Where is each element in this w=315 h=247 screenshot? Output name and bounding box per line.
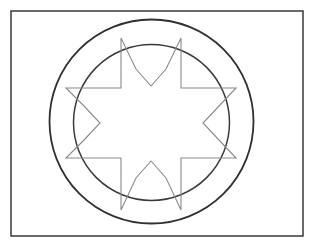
canvas-background: [0, 0, 315, 247]
figure-canvas: [0, 0, 315, 247]
geometric-figure: [0, 0, 315, 247]
